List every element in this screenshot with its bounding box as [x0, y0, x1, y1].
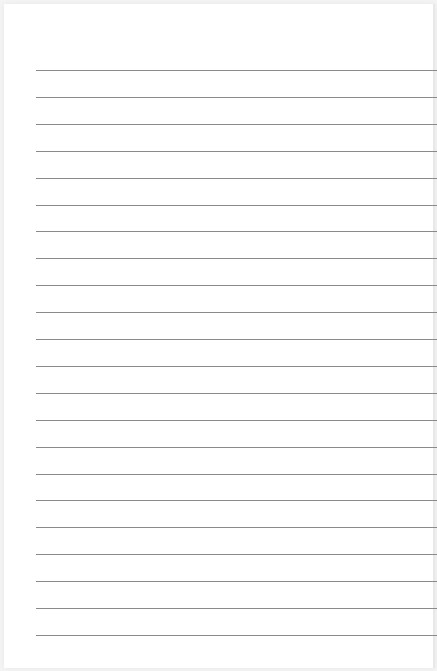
ruled-line — [36, 393, 437, 394]
ruled-line — [36, 205, 437, 206]
ruled-line — [36, 366, 437, 367]
ruled-line — [36, 500, 437, 501]
ruled-line — [36, 527, 437, 528]
ruled-line — [36, 554, 437, 555]
ruled-line — [36, 312, 437, 313]
ruled-line — [36, 635, 437, 636]
ruled-line — [36, 339, 437, 340]
ruled-line — [36, 231, 437, 232]
ruled-line — [36, 474, 437, 475]
ruled-line — [36, 258, 437, 259]
ruled-line — [36, 178, 437, 179]
page-edge — [433, 4, 435, 668]
ruled-line — [36, 608, 437, 609]
ruled-line — [36, 97, 437, 98]
ruled-line — [36, 420, 437, 421]
ruled-line — [36, 447, 437, 448]
ruled-line — [36, 70, 437, 71]
lined-paper-sheet — [4, 4, 435, 668]
ruled-line — [36, 285, 437, 286]
ruled-line — [36, 124, 437, 125]
ruled-line — [36, 151, 437, 152]
ruled-line — [36, 581, 437, 582]
